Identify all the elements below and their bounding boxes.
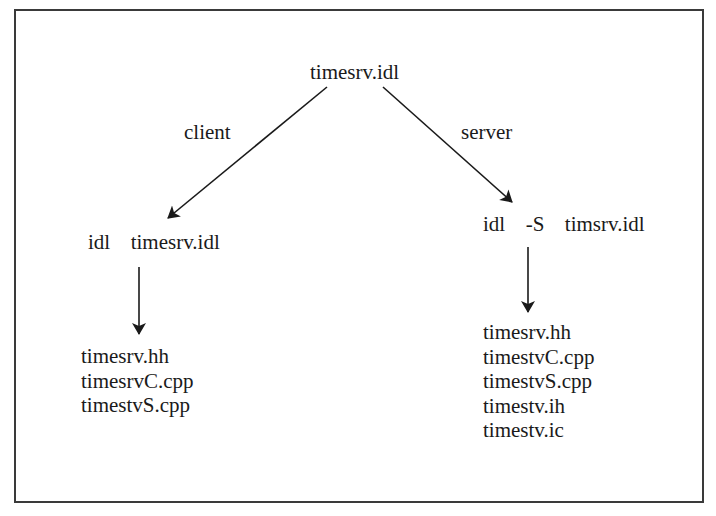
client-edge-label: client: [184, 120, 231, 144]
server-output-files: timesrv.hh timestvC.cpp timestvS.cpp tim…: [483, 320, 594, 443]
server-edge-label: server: [461, 120, 512, 144]
server-file: timestv.ic: [483, 418, 594, 443]
server-file: timestvC.cpp: [483, 345, 594, 370]
server-command: idl -S timsrv.idl: [483, 212, 645, 236]
server-file: timestv.ih: [483, 394, 594, 419]
client-file: timesrvC.cpp: [81, 369, 194, 394]
client-output-files: timesrv.hh timesrvC.cpp timestvS.cpp: [81, 344, 194, 418]
arrow-root-to-client: [168, 87, 327, 218]
arrow-root-to-server: [383, 87, 512, 202]
server-file: timestvS.cpp: [483, 369, 594, 394]
client-file: timestvS.cpp: [81, 393, 194, 418]
server-file: timesrv.hh: [483, 320, 594, 345]
root-node-label: timesrv.idl: [310, 60, 399, 84]
client-command: idl timesrv.idl: [88, 230, 220, 254]
client-file: timesrv.hh: [81, 344, 194, 369]
